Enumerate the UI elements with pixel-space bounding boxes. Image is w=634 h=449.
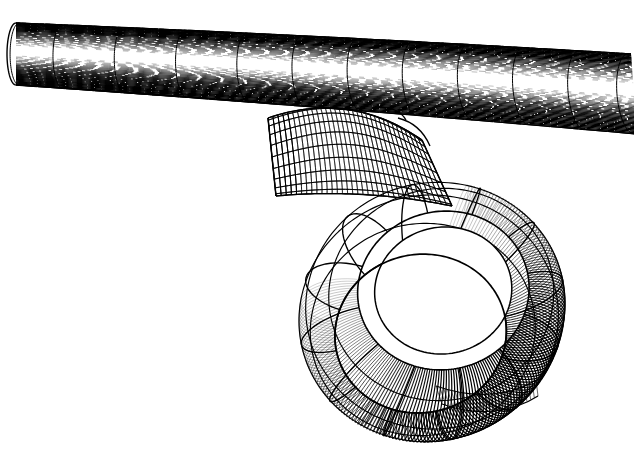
- illustration-root: [0, 0, 634, 449]
- line-art-figure-canvas: [0, 0, 634, 449]
